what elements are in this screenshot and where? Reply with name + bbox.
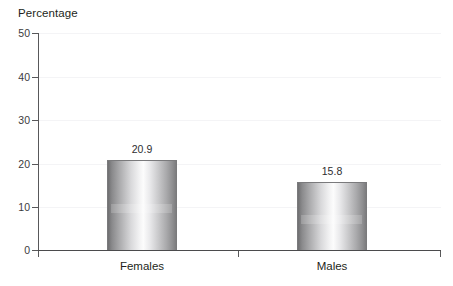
y-axis-title: Percentage [18,7,78,19]
y-tick-10 [32,207,38,208]
x-category-label-males: Males [288,260,376,272]
y-axis-line [38,33,39,251]
x-tick-middle [238,251,239,257]
y-tick-label-10: 10 [4,202,30,213]
bar-males [297,182,367,251]
bar-value-label-females: 20.9 [107,143,177,155]
y-tick-50 [32,33,38,34]
y-tick-label-30: 30 [4,115,30,126]
plot-area [38,33,441,251]
gridline-10 [38,207,441,208]
y-tick-label-20: 20 [4,159,30,170]
gridline-30 [38,120,441,121]
y-tick-label-40: 40 [4,72,30,83]
y-tick-20 [32,164,38,165]
x-tick-left [38,251,39,257]
gridline-50 [38,33,441,34]
x-category-label-females: Females [98,260,186,272]
bar-chart: Percentage 50 40 30 20 10 0 20.9 15.8 Fe… [0,0,453,286]
y-tick-40 [32,77,38,78]
x-axis-line [38,250,441,251]
clipped-text-row [0,0,453,4]
gridline-40 [38,77,441,78]
y-tick-label-50: 50 [4,28,30,39]
bar-females [107,160,177,251]
y-tick-30 [32,120,38,121]
gridline-20 [38,164,441,165]
y-tick-label-0: 0 [4,245,30,256]
x-tick-right [440,251,441,257]
bar-value-label-males: 15.8 [297,165,367,177]
